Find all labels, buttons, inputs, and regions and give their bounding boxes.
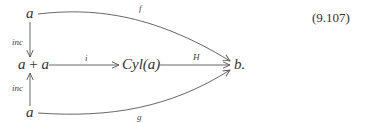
node-bottom-a: a xyxy=(26,105,34,120)
node-sum-right: a xyxy=(41,56,49,72)
arrow-f xyxy=(38,12,230,61)
label-i: i xyxy=(85,54,88,63)
node-b: b. xyxy=(234,57,245,72)
node-top-a: a xyxy=(26,6,34,21)
equation-number: (9.107) xyxy=(312,11,350,24)
arrow-g xyxy=(38,70,230,114)
label-f: f xyxy=(139,4,142,13)
plus-sign: + xyxy=(29,56,37,72)
commutative-diagram: a a + a Cyl(a) a b. f inc inc i H g (9.1… xyxy=(0,0,366,123)
label-inc-bottom: inc xyxy=(12,84,23,93)
label-g: g xyxy=(137,113,142,122)
label-inc-top: inc xyxy=(12,38,23,47)
node-sum-left: a xyxy=(18,56,26,72)
label-H: H xyxy=(193,53,200,62)
node-a-plus-a: a + a xyxy=(18,57,49,72)
node-cyl-a: Cyl(a) xyxy=(122,57,160,72)
